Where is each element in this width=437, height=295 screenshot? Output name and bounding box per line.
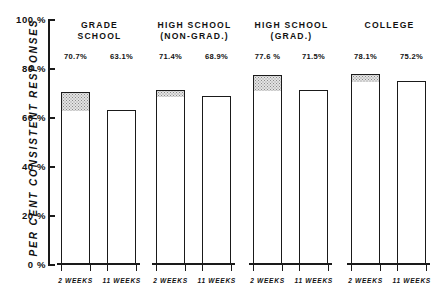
bar-value-label: 71.5% [297, 52, 331, 61]
y-axis-tick-label-wrap: 40 % [0, 161, 46, 173]
x-axis-tick-mark [380, 265, 381, 271]
bar-value-label: 78.1% [349, 52, 383, 61]
x-axis-tick-label: 11 WEEKS [103, 277, 141, 284]
y-axis-tick-label-wrap: 80 % [0, 63, 46, 75]
bar [61, 92, 90, 265]
bar-group-title-line2: SCHOOL [58, 31, 141, 42]
x-axis-tick-mark [397, 265, 398, 271]
bar-value-labels: 77.6 %71.5% [250, 52, 333, 63]
bar-group-title: COLLEGE [348, 20, 431, 31]
x-axis-tick-mark [282, 265, 283, 271]
x-axis-tick-mark [185, 265, 186, 271]
x-axis-tick-label: 2 WEEKS [57, 277, 95, 284]
bar-group: HIGH SCHOOL(GRAD.)77.6 %71.5%2 WEEKS11 W… [250, 20, 333, 265]
y-axis-tick-label: 100 % [2, 14, 46, 25]
group-baseline [249, 263, 332, 265]
bar-group-title-line1: HIGH SCHOOL [158, 20, 232, 30]
bar-group: GRADESCHOOL70.7%63.1%2 WEEKS11 WEEKS [58, 20, 141, 265]
bar-value-labels: 71.4%68.9% [153, 52, 236, 63]
bar [351, 74, 380, 265]
y-axis-tick-label-wrap: 20 % [0, 210, 46, 222]
x-axis-tick-label: 2 WEEKS [347, 277, 385, 284]
bar-group-title-line1: HIGH SCHOOL [255, 20, 329, 30]
group-baseline [152, 263, 235, 265]
bar-value-label: 70.7% [59, 52, 93, 61]
bar-group: COLLEGE78.1%75.2%2 WEEKS11 WEEKS [348, 20, 431, 265]
bar [397, 81, 426, 265]
bar [202, 96, 231, 265]
group-baseline [57, 263, 140, 265]
plot-area: GRADESCHOOL70.7%63.1%2 WEEKS11 WEEKSHIGH… [48, 20, 437, 265]
bar-value-label: 77.6 % [251, 52, 285, 61]
x-axis-tick-mark [202, 265, 203, 271]
x-axis-tick-mark [231, 265, 232, 271]
bar [156, 90, 185, 265]
y-axis-tick-label-wrap: 60 % [0, 112, 46, 124]
x-axis-tick-mark [299, 265, 300, 271]
bar-group-title-line2: (GRAD.) [250, 31, 333, 42]
bar-group-title: HIGH SCHOOL(GRAD.) [250, 20, 333, 42]
bar-group-title: HIGH SCHOOL(NON-GRAD.) [153, 20, 236, 42]
x-axis-tick-mark [426, 265, 427, 271]
y-axis-tick-label: 40 % [2, 161, 46, 172]
bar [299, 90, 328, 265]
y-axis-title: PER CENT CONSISTENT RESPONSES [28, 13, 39, 263]
bar-shaded-band [254, 76, 281, 91]
bar-value-label: 75.2% [395, 52, 429, 61]
bar-shaded-band [157, 91, 184, 97]
bar-value-label: 71.4% [154, 52, 188, 61]
x-axis-tick-mark [328, 265, 329, 271]
x-axis-tick-mark [107, 265, 108, 271]
group-baseline [347, 263, 430, 265]
y-axis-tick-label-wrap: 0 % [0, 259, 46, 271]
bar [107, 110, 136, 265]
x-axis-tick-label: 2 WEEKS [152, 277, 190, 284]
bar-shaded-band [352, 75, 379, 82]
bar-shaded-band [62, 93, 89, 112]
bar-group: HIGH SCHOOL(NON-GRAD.)71.4%68.9%2 WEEKS1… [153, 20, 236, 265]
x-axis-tick-label: 2 WEEKS [249, 277, 287, 284]
x-axis-tick-mark [61, 265, 62, 271]
bar-value-label: 68.9% [200, 52, 234, 61]
x-axis-tick-mark [136, 265, 137, 271]
x-axis-tick-label: 11 WEEKS [295, 277, 333, 284]
y-axis-tick-label: 60 % [2, 112, 46, 123]
bar [253, 75, 282, 265]
bar-value-label: 63.1% [105, 52, 139, 61]
y-axis-tick-label: 0 % [2, 259, 46, 270]
x-axis-tick-mark [156, 265, 157, 271]
y-axis-tick-label: 20 % [2, 210, 46, 221]
bar-group-title-line1: GRADE [81, 20, 118, 30]
bar-chart: PER CENT CONSISTENT RESPONSES 100 %80 %6… [0, 0, 437, 295]
x-axis-tick-mark [351, 265, 352, 271]
bar-group-title-line1: COLLEGE [365, 20, 415, 30]
bar-value-labels: 70.7%63.1% [58, 52, 141, 63]
y-axis-tick-label-wrap: 100 % [0, 14, 46, 26]
bar-group-title: GRADESCHOOL [58, 20, 141, 42]
y-axis-tick-label: 80 % [2, 63, 46, 74]
bar-group-title-line2: (NON-GRAD.) [153, 31, 236, 42]
x-axis-tick-mark [253, 265, 254, 271]
bar-value-labels: 78.1%75.2% [348, 52, 431, 63]
x-axis-tick-mark [90, 265, 91, 271]
x-axis-tick-label: 11 WEEKS [198, 277, 236, 284]
x-axis-tick-label: 11 WEEKS [393, 277, 431, 284]
